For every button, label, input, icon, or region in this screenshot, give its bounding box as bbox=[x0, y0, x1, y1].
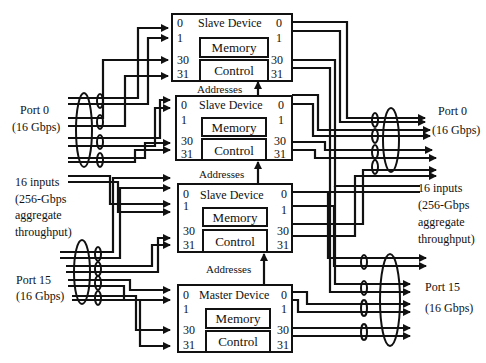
right-port-0-label: Port 0 bbox=[438, 104, 467, 118]
out-port-31-label: 31 bbox=[274, 147, 286, 161]
memory-label: Memory bbox=[212, 40, 257, 55]
slave-device-2: 0 1 30 31 Slave Device Memory Control 0 … bbox=[176, 96, 292, 161]
left-port-0-label: Port 0 bbox=[20, 103, 49, 117]
in-port-30-label: 30 bbox=[181, 134, 193, 148]
out-port-30-label: 30 bbox=[271, 53, 283, 67]
right-port-15-label: Port 15 bbox=[425, 280, 460, 294]
left-bundle-ellipses bbox=[74, 93, 103, 305]
left-summary-line-1: 16 inputs bbox=[15, 175, 60, 189]
in-port-1-label: 1 bbox=[183, 199, 189, 213]
out-port-31-label: 31 bbox=[277, 338, 289, 352]
in-port-31-label: 31 bbox=[177, 67, 189, 81]
right-bundle-ellipses bbox=[361, 108, 400, 346]
out-port-1-label: 1 bbox=[276, 31, 282, 45]
out-port-30-label: 30 bbox=[277, 323, 289, 337]
control-label: Control bbox=[218, 334, 258, 349]
in-port-1-label: 1 bbox=[181, 113, 187, 127]
slave-device-1: 0 1 30 31 Slave Device Memory Control 0 … bbox=[172, 14, 292, 81]
in-port-0-label: 0 bbox=[177, 16, 183, 30]
control-label: Control bbox=[214, 63, 254, 78]
control-label: Control bbox=[215, 234, 255, 249]
master-device: 0 1 30 31 Master Device Memory Control 0… bbox=[178, 285, 292, 352]
memory-label: Memory bbox=[213, 210, 258, 225]
left-port-0-rate: (16 Gbps) bbox=[12, 120, 60, 134]
in-port-31-label: 31 bbox=[181, 147, 193, 161]
device-title: Slave Device bbox=[200, 188, 264, 202]
switch-fabric-diagram: 0 1 30 31 Slave Device Memory Control 0 … bbox=[0, 0, 486, 363]
left-summary-line-3: aggregate bbox=[15, 208, 62, 222]
out-port-0-label: 0 bbox=[276, 16, 282, 30]
right-summary-line-4: throughput) bbox=[418, 232, 475, 246]
left-port-15-rate: (16 Gbps) bbox=[16, 289, 64, 303]
in-port-0-label: 0 bbox=[183, 288, 189, 302]
addresses-label-1: Addresses bbox=[197, 83, 242, 95]
control-label: Control bbox=[214, 143, 254, 158]
out-port-0-label: 0 bbox=[278, 98, 284, 112]
out-port-1-label: 1 bbox=[281, 302, 287, 316]
device-title: Master Device bbox=[199, 288, 269, 302]
in-port-31-label: 31 bbox=[183, 338, 195, 352]
left-port-15-label: Port 15 bbox=[16, 273, 51, 287]
in-port-30-label: 30 bbox=[177, 53, 189, 67]
out-port-30-label: 30 bbox=[277, 224, 289, 238]
memory-label: Memory bbox=[216, 311, 261, 326]
in-port-31-label: 31 bbox=[183, 238, 195, 252]
out-port-0-label: 0 bbox=[281, 187, 287, 201]
right-port-15-rate: (16 Gbps) bbox=[425, 301, 473, 315]
left-summary-line-4: throughput) bbox=[15, 225, 72, 239]
right-summary-line-1: 16 inputs bbox=[418, 181, 463, 195]
device-title: Slave Device bbox=[199, 98, 263, 112]
left-summary-line-2: (256-Gbps bbox=[15, 192, 67, 206]
device-title: Slave Device bbox=[198, 16, 262, 30]
left-labels: Port 0 (16 Gbps) 16 inputs (256-Gbps agg… bbox=[12, 103, 72, 303]
addresses-label-3: Addresses bbox=[206, 263, 251, 275]
in-port-0-label: 0 bbox=[181, 98, 187, 112]
out-port-30-label: 30 bbox=[274, 134, 286, 148]
out-port-0-label: 0 bbox=[281, 288, 287, 302]
right-summary-line-2: (256-Gbps bbox=[418, 198, 470, 212]
in-port-1-label: 1 bbox=[183, 302, 189, 316]
addresses-label-2: Addresses bbox=[199, 168, 244, 180]
out-port-31-label: 31 bbox=[277, 238, 289, 252]
out-port-31-label: 31 bbox=[271, 67, 283, 81]
slave-device-3: 0 1 30 31 Slave Device Memory Control 0 … bbox=[178, 184, 292, 252]
in-port-30-label: 30 bbox=[183, 323, 195, 337]
out-port-1-label: 1 bbox=[278, 113, 284, 127]
right-port-0-rate: (16 Gbps) bbox=[432, 123, 480, 137]
in-port-1-label: 1 bbox=[177, 31, 183, 45]
right-summary-line-3: aggregate bbox=[418, 215, 465, 229]
memory-label: Memory bbox=[212, 120, 257, 135]
out-port-1-label: 1 bbox=[281, 203, 287, 217]
in-port-30-label: 30 bbox=[183, 224, 195, 238]
output-wires bbox=[292, 22, 436, 336]
